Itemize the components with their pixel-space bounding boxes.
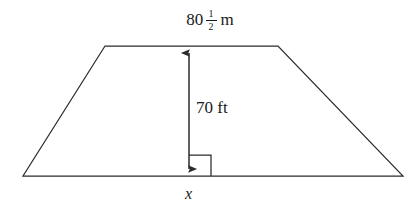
base-variable-label: x [185,186,192,202]
fraction-denominator: 2 [208,21,215,32]
height-label: 70 ft [196,99,228,116]
geometry-figure: 80 1 2 m 70 ft x [0,0,420,216]
top-base-label: 80 1 2 m [0,8,420,31]
top-base-unit: m [221,11,234,28]
mixed-number: 80 1 2 m [186,8,234,31]
fraction: 1 2 [206,9,217,32]
whole-number: 80 [186,11,203,28]
fraction-numerator: 1 [208,9,215,20]
